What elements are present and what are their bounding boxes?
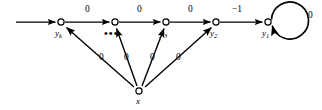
ellipsis-dots: ••• [104, 28, 119, 39]
edge-weight-y3-to-y2: 0 [188, 5, 193, 15]
edge-weight-dots-to-y3: 0 [137, 5, 142, 15]
node-label-yk-subscript: k [59, 32, 62, 39]
node-label-x: x [136, 97, 140, 106]
edge-weight-x-to-yk: 0 [99, 53, 104, 63]
node-label-y3-subscript: 3 [164, 32, 167, 39]
node-y1[interactable] [265, 19, 271, 25]
edge-weight-x-to-y3: 0 [150, 53, 155, 63]
node-label-y3: y3 [160, 29, 167, 38]
edge-weight-x-to-y2: 0 [176, 53, 181, 63]
node-x[interactable] [136, 88, 142, 94]
edge-weight-x-to-dots: 0 [124, 53, 129, 63]
edge-weight-y1-self-loop: 0 [308, 11, 313, 21]
edge-weight-y2-to-y1: −1 [232, 5, 242, 15]
node-yk[interactable] [58, 19, 64, 25]
node-label-y1: y1 [262, 29, 269, 38]
node-label-y1-subscript: 1 [266, 32, 269, 39]
node-y3[interactable] [163, 19, 169, 25]
node-label-y2: y2 [210, 29, 217, 38]
node-intermediate[interactable] [112, 19, 118, 25]
node-label-x-base: x [136, 96, 140, 106]
graph-canvas [0, 0, 322, 110]
edge-weight-yk-to-dots: 0 [85, 5, 90, 15]
node-y2[interactable] [213, 19, 219, 25]
graph-figure: ••• 0 0 0 −1 0 0 0 0 0 yk y3 y2 y1 x [0, 0, 322, 110]
node-label-yk: yk [55, 29, 62, 38]
edge-y1-self-loop [272, 2, 309, 39]
node-label-y2-subscript: 2 [214, 32, 217, 39]
